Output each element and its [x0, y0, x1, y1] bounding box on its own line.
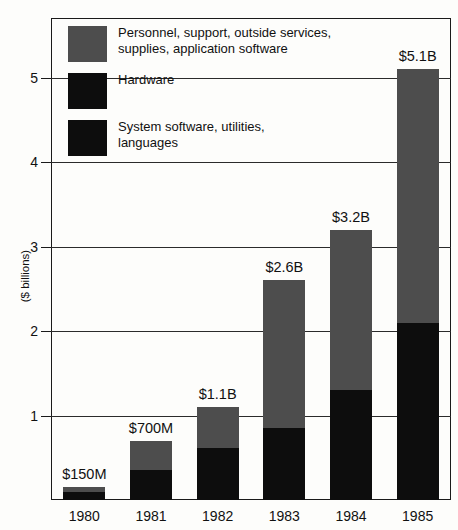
bar-value-label-1983: $2.6B [239, 259, 329, 275]
gridline-3 [51, 247, 451, 248]
gridline-2 [51, 331, 451, 332]
bar-segment-hardware-system-1982 [197, 448, 239, 500]
bar-value-label-1984: $3.2B [306, 209, 396, 225]
bar-value-label-1980: $150M [39, 466, 129, 482]
y-tick-3 [41, 247, 51, 248]
legend-label-system: System software, utilities, languages [118, 119, 265, 150]
legend-label-hardware: Hardware [118, 72, 174, 88]
legend-swatch-icon-hardware [68, 73, 107, 109]
bar-value-label-1985: $5.1B [373, 48, 458, 64]
legend-item-system: System software, utilities, languages [68, 120, 368, 156]
legend-label-personnel: Personnel, support, outside services, su… [118, 25, 331, 56]
stacked-bar-chart: 12345 ($ billions) $150M$700M$1.1B$2.6B$… [0, 0, 458, 530]
y-tick-1 [41, 416, 51, 417]
y-tick-label-2: 2 [20, 324, 38, 338]
bar-segment-hardware-system-1983 [263, 428, 305, 500]
legend-swatch-icon-personnel [68, 26, 107, 62]
y-tick-2 [41, 331, 51, 332]
y-tick-4 [41, 162, 51, 163]
legend-item-personnel: Personnel, support, outside services, su… [68, 26, 368, 62]
y-axis-title: ($ billions) [19, 231, 31, 321]
bar-segment-hardware-system-1985 [397, 323, 439, 500]
bar-segment-hardware-system-1981 [130, 470, 172, 500]
y-tick-label-5: 5 [20, 71, 38, 85]
bar-value-label-1982: $1.1B [173, 386, 263, 402]
legend-item-hardware: Hardware [68, 73, 368, 109]
bar-value-label-1981: $700M [106, 420, 196, 436]
y-tick-5 [41, 78, 51, 79]
bar-segment-hardware-system-1980 [63, 492, 105, 500]
bar-segment-personnel-1982 [197, 407, 239, 448]
bar-segment-personnel-1983 [263, 280, 305, 428]
bar-segment-hardware-system-1984 [330, 390, 372, 500]
legend: Personnel, support, outside services, su… [68, 26, 368, 167]
bar-segment-personnel-1984 [330, 230, 372, 391]
bar-segment-personnel-1981 [130, 441, 172, 471]
y-tick-label-4: 4 [20, 155, 38, 169]
legend-swatch-icon-system [68, 120, 107, 156]
bar-segment-personnel-1985 [397, 69, 439, 323]
bar-group-1985: $5.1B [397, 0, 439, 530]
y-tick-label-1: 1 [20, 409, 38, 423]
gridline-1 [51, 416, 451, 417]
x-tick-label-1985: 1985 [373, 508, 458, 524]
